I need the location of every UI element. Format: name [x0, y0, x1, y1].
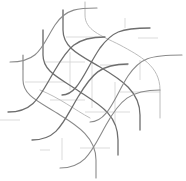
curve-lattice-canvas [0, 0, 186, 181]
rising-s-curve [10, 8, 97, 62]
falling-s-curve [85, 2, 160, 118]
